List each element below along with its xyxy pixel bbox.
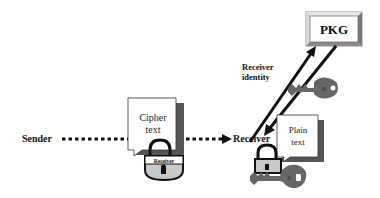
- cipher-label-line1: Cipher: [139, 112, 167, 123]
- plain-label-line1: Plain: [289, 125, 308, 135]
- receiver-identity-line2: identity: [242, 72, 271, 82]
- cipher-label-line2: text: [146, 124, 161, 135]
- receiver-key-glyph: S: [287, 174, 291, 182]
- pkg-label: PKG: [320, 22, 348, 37]
- ibe-diagram: PKG Receiver identity S Sender Cipher te…: [0, 0, 380, 198]
- key-glyph: S: [322, 85, 326, 93]
- pkg-node: PKG: [306, 12, 362, 46]
- cipher-dotted-arrow: [186, 134, 232, 144]
- cipher-text-document: Cipher text: [128, 98, 184, 156]
- sender-label: Sender: [22, 133, 53, 144]
- plain-text-document: Plain text: [277, 115, 324, 162]
- padlock-label: Receiver: [154, 158, 175, 164]
- receiver-identity-line1: Receiver: [242, 62, 274, 72]
- plain-label-line2: text: [291, 137, 305, 147]
- receiver-identity-label: Receiver identity: [242, 62, 274, 82]
- receiver-label: Receiver: [233, 133, 271, 144]
